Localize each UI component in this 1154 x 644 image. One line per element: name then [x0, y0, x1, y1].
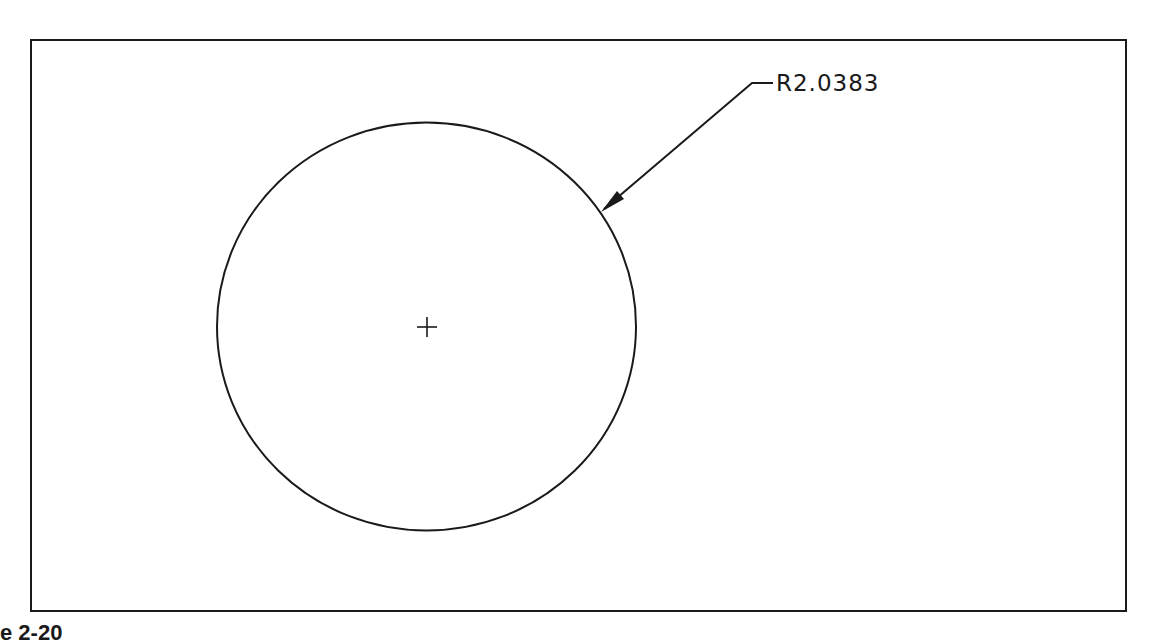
center-mark-icon: [417, 317, 437, 337]
radius-dimension-label: R2.0383: [776, 70, 879, 96]
figure-caption: e 2-20: [0, 622, 62, 644]
dimension-leader: [601, 83, 773, 212]
